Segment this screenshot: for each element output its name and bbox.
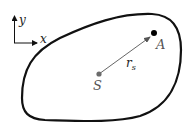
- vector-label: rs: [126, 56, 136, 72]
- coordinate-axes: y x: [14, 13, 47, 46]
- source-label: S: [93, 78, 102, 93]
- source-point-s: [96, 71, 101, 76]
- region-boundary: [22, 14, 181, 121]
- observer-point-a: [151, 30, 157, 36]
- y-axis-label: y: [18, 13, 26, 27]
- observer-label: A: [155, 37, 165, 52]
- x-axis-label: x: [40, 32, 47, 46]
- vector-label-subscript: s: [132, 63, 136, 72]
- diagram-canvas: y x S A rs: [0, 0, 190, 129]
- position-vector-rs: [99, 37, 150, 74]
